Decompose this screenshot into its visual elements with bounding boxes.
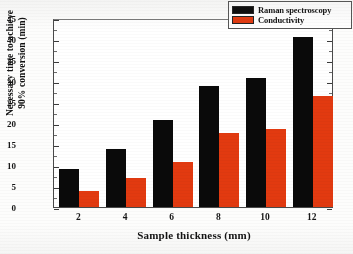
legend-swatch-raman (232, 6, 254, 14)
y-tick-minor (329, 51, 332, 52)
y-tick-label: 40 (0, 35, 16, 45)
y-tick-label: 15 (0, 140, 16, 150)
legend-label-conductivity: Conductivity (258, 15, 304, 25)
y-tick-minor (329, 93, 332, 94)
y-tick-label: 5 (0, 182, 16, 192)
y-tick-major (54, 209, 59, 210)
y-tick-major (54, 104, 59, 105)
legend-swatch-conductivity (232, 16, 254, 24)
y-tick-label: 35 (0, 56, 16, 66)
legend-item-raman: Raman spectroscopy (232, 5, 348, 15)
y-tick-label: 25 (0, 98, 16, 108)
y-tick-major (54, 188, 59, 189)
bar-raman-6mm (153, 120, 173, 207)
legend: Raman spectroscopy Conductivity (228, 1, 352, 29)
y-tick-major (327, 41, 332, 42)
x-tick-label: 10 (252, 212, 278, 222)
y-tick-major (327, 83, 332, 84)
y-tick-minor (54, 177, 57, 178)
x-tick-label: 8 (205, 212, 231, 222)
bar-raman-2mm (59, 169, 79, 207)
y-tick-minor (54, 198, 57, 199)
bar-conductivity-10mm (266, 129, 286, 207)
y-tick-major (54, 146, 59, 147)
y-axis-title-line2: 90% conversion (min) (17, 0, 29, 153)
bar-conductivity-12mm (313, 96, 333, 207)
x-tick-label: 4 (112, 212, 138, 222)
bar-conductivity-4mm (126, 178, 146, 207)
y-tick-minor (54, 114, 57, 115)
y-tick-major (327, 209, 332, 210)
y-tick-minor (329, 30, 332, 31)
y-tick-minor (54, 51, 57, 52)
y-tick-label: 45 (0, 14, 16, 24)
legend-item-conductivity: Conductivity (232, 15, 348, 25)
bar-raman-12mm (293, 37, 313, 207)
bar-raman-10mm (246, 78, 266, 207)
y-tick-label: 20 (0, 119, 16, 129)
y-tick-label: 0 (0, 203, 16, 213)
x-tick-label: 2 (65, 212, 91, 222)
y-tick-major (54, 125, 59, 126)
y-tick-major (327, 62, 332, 63)
y-tick-minor (54, 156, 57, 157)
y-tick-minor (54, 135, 57, 136)
bar-raman-8mm (199, 86, 219, 207)
y-tick-major (54, 83, 59, 84)
x-tick-label: 12 (299, 212, 325, 222)
y-tick-minor (54, 93, 57, 94)
bar-raman-4mm (106, 149, 126, 207)
y-tick-major (54, 20, 59, 21)
y-tick-major (54, 41, 59, 42)
y-tick-major (54, 167, 59, 168)
y-tick-minor (54, 30, 57, 31)
bar-conductivity-8mm (219, 133, 239, 207)
y-tick-minor (54, 72, 57, 73)
y-tick-major (54, 62, 59, 63)
y-tick-label: 10 (0, 161, 16, 171)
bar-conductivity-2mm (79, 191, 99, 207)
bar-chart-figure: Necessary time to achieve 90% conversion… (0, 0, 353, 254)
y-tick-label: 30 (0, 77, 16, 87)
y-tick-minor (329, 72, 332, 73)
x-axis-title: Sample thickness (mm) (53, 229, 335, 241)
x-tick-label: 6 (159, 212, 185, 222)
plot-area (53, 19, 333, 208)
bar-conductivity-6mm (173, 162, 193, 207)
legend-label-raman: Raman spectroscopy (258, 5, 331, 15)
